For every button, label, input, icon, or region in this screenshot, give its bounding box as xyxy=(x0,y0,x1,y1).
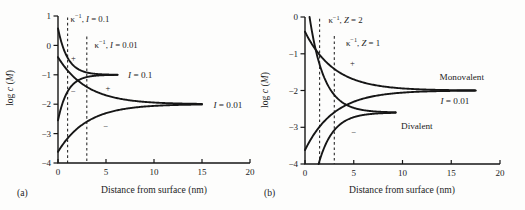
panel-letter-label: (a) xyxy=(17,187,28,199)
y-tick-label: −2 xyxy=(288,86,298,96)
y-tick-label: −3 xyxy=(41,129,51,139)
x-tick-label: 15 xyxy=(447,168,457,178)
x-tick-label: 0 xyxy=(56,167,61,177)
curve-counterion-I-0.1 xyxy=(58,28,118,74)
x-tick-label: 15 xyxy=(198,167,208,177)
curve-label-2: I = 0.01 xyxy=(213,100,243,110)
ion-sign-marker: − xyxy=(104,121,109,131)
x-tick-label: 10 xyxy=(398,168,408,178)
ion-sign-marker: + xyxy=(106,83,111,93)
ion-sign-marker: + xyxy=(71,53,76,63)
x-tick-label: 20 xyxy=(246,167,256,177)
x-axis-label: Distance from surface (nm) xyxy=(349,184,455,196)
curve-label-2: I = 0.01 xyxy=(440,96,470,106)
y-tick-label: −1 xyxy=(288,49,298,59)
y-tick-label: −4 xyxy=(41,158,51,168)
y-tick-label: 0 xyxy=(294,12,299,22)
y-tick-label: −1 xyxy=(41,70,51,80)
y-tick-label: −2 xyxy=(41,99,51,109)
x-tick-label: 10 xyxy=(150,167,160,177)
y-tick-label: 1 xyxy=(47,11,52,21)
ion-sign-marker: + xyxy=(350,58,355,68)
x-tick-label: 5 xyxy=(104,167,109,177)
panel-letter-label: (b) xyxy=(264,187,275,199)
curve-label-3: Divalent xyxy=(401,121,433,131)
x-tick-label: 20 xyxy=(496,168,506,178)
curve-label-1: Monovalent xyxy=(440,72,485,82)
figure-svg: κ−1, I = 0.1κ−1, I = 0.010510152010−1−2−… xyxy=(0,0,525,210)
curve-coion-I-0.01 xyxy=(58,105,202,152)
two-panel-ion-concentration-figure: κ−1, I = 0.1κ−1, I = 0.010510152010−1−2−… xyxy=(0,0,525,210)
x-tick-label: 5 xyxy=(352,168,357,178)
debye-length-label-2: κ−1, Z = 1 xyxy=(346,36,380,47)
y-tick-label: −4 xyxy=(288,159,298,169)
debye-length-label-2: κ−1, I = 0.01 xyxy=(95,38,138,49)
curve-label-1: I = 0.1 xyxy=(127,70,153,80)
y-tick-label: −3 xyxy=(288,122,298,132)
x-tick-label: 0 xyxy=(303,168,308,178)
curve-divalent-coion xyxy=(319,113,396,164)
ion-sign-marker: − xyxy=(71,86,76,96)
panel-b: κ−1, Z = 2κ−1, Z = 1051015200−1−2−3−4Mon… xyxy=(259,12,505,199)
y-tick-label: 0 xyxy=(47,41,52,51)
x-axis-label: Distance from surface (nm) xyxy=(101,184,207,196)
panel-a: κ−1, I = 0.1κ−1, I = 0.010510152010−1−2−… xyxy=(4,11,255,199)
ion-sign-marker: − xyxy=(351,127,356,137)
y-axis-label: log c (M) xyxy=(259,72,271,108)
y-axis-label: log c (M) xyxy=(4,70,16,106)
debye-length-label-1: κ−1, Z = 2 xyxy=(328,14,362,25)
debye-length-label-1: κ−1, I = 0.1 xyxy=(71,12,110,23)
